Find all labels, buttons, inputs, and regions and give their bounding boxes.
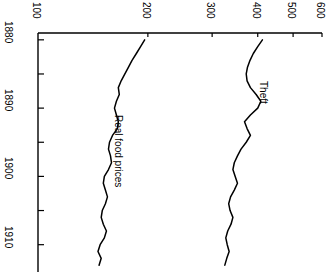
- series-line-theft: [225, 40, 263, 265]
- chart-canvas: [0, 0, 332, 276]
- value-tick-label: 100: [31, 2, 42, 19]
- axes-group: [38, 33, 322, 272]
- value-tick-label: 300: [205, 2, 216, 19]
- tick-marks-group: [38, 33, 322, 245]
- chart-figure: 1002003004005006001880189019001910Real f…: [0, 0, 332, 276]
- value-tick-label: 200: [141, 2, 152, 19]
- value-tick-label: 500: [286, 2, 297, 19]
- year-tick-label: 1890: [3, 89, 14, 111]
- year-tick-label: 1880: [3, 21, 14, 43]
- value-tick-label: 400: [251, 2, 262, 19]
- series-annotation: Real food prices: [113, 115, 124, 187]
- series-annotation: Theft: [258, 81, 269, 104]
- value-tick-label: 600: [315, 2, 326, 19]
- year-tick-label: 1900: [3, 157, 14, 179]
- year-tick-label: 1910: [3, 226, 14, 248]
